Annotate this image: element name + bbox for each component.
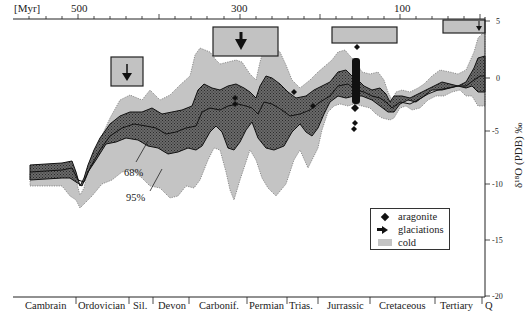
period-triassic: Trias. (289, 300, 313, 311)
glaciation-box-ordovician (111, 57, 143, 86)
y-axis-label: δ¹⁸O (PDB) ‰ (512, 123, 525, 188)
period-cretaceous: Cretaceous (379, 300, 426, 311)
top-tick-100: 100 (394, 2, 411, 14)
diamond-icon (381, 212, 389, 220)
legend: aragonite glaciations cold (370, 208, 450, 250)
period-devonian: Devon (158, 300, 187, 311)
legend-item-glaciations: glaciations (377, 223, 449, 236)
top-tick-500: 500 (71, 2, 88, 14)
top-tick-300: 300 (231, 2, 248, 14)
period-ordovician: Ordovician (78, 300, 126, 311)
glaciation-box-tertiary (443, 20, 485, 33)
cold-box-jurassic (332, 27, 397, 43)
annotation-95-percent: 95% (126, 192, 146, 203)
cold-swatch-icon (378, 239, 392, 246)
period-carboniferous: Carbonif. (199, 300, 239, 311)
legend-item-aragonite: aragonite (377, 210, 449, 223)
legend-label-glaciations: glaciations (398, 224, 444, 235)
right-d18o-axis: 5 0 -5 -10 -15 -20 δ¹⁸O (PDB) ‰ (485, 17, 525, 301)
top-time-axis: [Myr] 500 300 100 (13, 2, 485, 19)
period-cambrian: Cambrain (25, 300, 67, 311)
y-tick-minus15: -15 (492, 236, 503, 245)
y-tick-minus5: -5 (492, 127, 499, 136)
legend-label-aragonite: aragonite (398, 211, 437, 222)
y-tick-minus10: -10 (492, 180, 503, 189)
period-silurian: Sil. (133, 300, 147, 311)
legend-label-cold: cold (398, 237, 416, 248)
legend-item-cold: cold (377, 236, 449, 249)
period-axis: Cambrain Ordovician Sil. Devon Carbonif.… (13, 297, 493, 311)
glaciation-box-carboniferous (213, 27, 278, 56)
oxygen-isotope-chart: [Myr] 500 300 100 5 0 -5 -10 -15 -20 δ¹⁸… (0, 0, 527, 318)
y-tick-minus20: -20 (492, 292, 503, 301)
annotation-68-percent: 68% (124, 167, 144, 178)
y-tick-0: 0 (496, 74, 500, 83)
period-quaternary: Q (485, 300, 493, 311)
arrow-right-icon (382, 226, 388, 234)
period-tertiary: Tertiary (440, 300, 474, 311)
y-tick-5: 5 (496, 17, 500, 26)
period-jurassic: Jurrassic (327, 300, 364, 311)
period-permian: Permian (249, 300, 285, 311)
top-axis-unit: [Myr] (14, 2, 40, 14)
